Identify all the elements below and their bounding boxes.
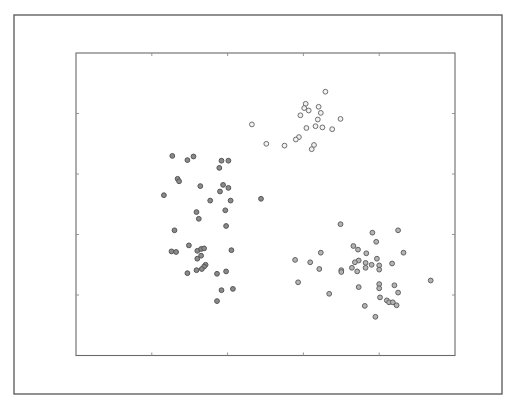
data-point (356, 285, 361, 290)
data-point (374, 239, 379, 244)
data-point (250, 122, 255, 127)
data-point (259, 196, 264, 201)
data-point (264, 141, 269, 146)
data-point (194, 210, 199, 215)
data-point (226, 158, 231, 163)
data-point (355, 269, 360, 274)
data-point (323, 89, 328, 94)
data-point (174, 250, 179, 255)
data-point (223, 208, 228, 213)
data-point (338, 117, 343, 122)
data-point (318, 111, 323, 116)
data-point (304, 126, 309, 131)
data-point (318, 250, 323, 255)
data-point (339, 270, 344, 275)
data-point (338, 222, 343, 227)
data-point (177, 179, 182, 184)
data-point (363, 261, 368, 266)
plot-area (76, 53, 455, 356)
data-point (226, 186, 231, 191)
data-point (401, 250, 406, 255)
data-point (362, 304, 367, 309)
data-point (369, 262, 374, 267)
data-point (302, 106, 307, 111)
data-point (390, 261, 395, 266)
data-point (377, 286, 382, 291)
data-point (215, 299, 220, 304)
data-point (185, 158, 190, 163)
scatter-figure (0, 0, 516, 410)
data-point (198, 184, 203, 189)
data-point (215, 271, 220, 276)
data-point (392, 283, 397, 288)
data-point (208, 198, 213, 203)
axes-box (76, 53, 455, 356)
data-point (351, 244, 356, 249)
data-point (353, 260, 358, 265)
data-point (231, 287, 236, 292)
data-point (375, 256, 380, 261)
data-point (306, 108, 311, 113)
data-point (162, 193, 167, 198)
data-point (394, 303, 399, 308)
data-point (363, 265, 368, 270)
data-point (327, 291, 332, 296)
data-point (293, 137, 298, 142)
data-point (194, 268, 199, 273)
data-point (219, 288, 224, 293)
data-point (373, 314, 378, 319)
data-point (218, 189, 223, 194)
data-point (219, 158, 224, 163)
data-point (217, 166, 222, 171)
data-point (170, 154, 175, 159)
data-point (316, 104, 321, 109)
data-point (377, 267, 382, 272)
data-point (195, 256, 200, 261)
data-point (202, 246, 207, 251)
data-point (191, 154, 196, 159)
data-point (309, 147, 314, 152)
data-point (317, 267, 322, 272)
data-point (293, 258, 298, 263)
data-point (229, 248, 234, 253)
data-point (296, 280, 301, 285)
data-point (282, 143, 287, 148)
data-point (313, 124, 318, 129)
data-point (298, 113, 303, 118)
data-point (308, 260, 313, 265)
data-point (187, 243, 192, 248)
data-point (370, 230, 375, 235)
data-point (199, 267, 204, 272)
data-point (364, 251, 369, 256)
data-point (396, 290, 401, 295)
data-point (428, 278, 433, 283)
data-point (378, 295, 383, 300)
data-point (169, 249, 174, 254)
data-point (224, 269, 229, 274)
data-point (315, 117, 320, 122)
data-point (196, 216, 201, 221)
data-point (320, 125, 325, 130)
data-point (356, 247, 361, 252)
data-point (396, 228, 401, 233)
data-point (330, 127, 335, 132)
data-point (228, 198, 233, 203)
data-point (350, 265, 355, 270)
data-point (185, 271, 190, 276)
data-point (172, 228, 177, 233)
data-point (221, 183, 226, 188)
data-point (224, 224, 229, 229)
